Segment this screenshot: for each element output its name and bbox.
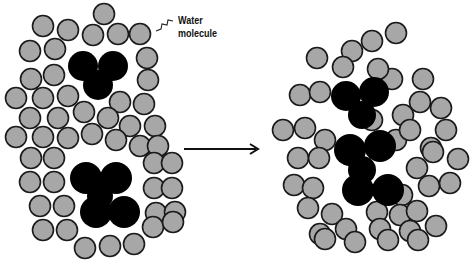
water-molecule bbox=[162, 178, 183, 199]
label-pointer-squiggle bbox=[156, 20, 173, 31]
water-molecule bbox=[54, 196, 75, 217]
water-molecule bbox=[58, 86, 79, 107]
water-molecule bbox=[6, 127, 27, 148]
water-molecule bbox=[44, 172, 65, 193]
water-molecule bbox=[33, 88, 54, 109]
water-molecule bbox=[33, 16, 54, 37]
water-molecule bbox=[440, 173, 461, 194]
water-molecule bbox=[426, 216, 447, 237]
water-molecule bbox=[145, 116, 166, 137]
water-molecule bbox=[75, 238, 96, 259]
water-molecule bbox=[33, 220, 54, 241]
water-molecule bbox=[290, 85, 311, 106]
water-molecule bbox=[30, 196, 51, 217]
water-molecule bbox=[20, 172, 41, 193]
water-molecule bbox=[386, 23, 407, 44]
water-molecule bbox=[83, 25, 104, 46]
water-molecule bbox=[134, 94, 155, 115]
label-line-2: molecule bbox=[178, 27, 217, 40]
water-molecule bbox=[419, 176, 440, 197]
water-molecule bbox=[362, 31, 383, 52]
water-molecule bbox=[378, 230, 399, 251]
water-molecule bbox=[309, 148, 330, 169]
water-molecule bbox=[345, 232, 366, 253]
transition-arrow bbox=[184, 144, 258, 154]
water-molecule bbox=[33, 127, 54, 148]
water-molecule bbox=[137, 48, 158, 69]
water-molecule bbox=[58, 128, 79, 149]
water-molecule bbox=[413, 69, 434, 90]
water-molecule bbox=[400, 120, 421, 141]
water-molecule bbox=[57, 220, 78, 241]
water-molecule bbox=[436, 120, 457, 141]
water-molecule bbox=[423, 142, 444, 163]
water-molecule bbox=[45, 39, 66, 60]
water-molecule bbox=[106, 130, 127, 151]
water-molecule bbox=[273, 120, 294, 141]
water-molecule bbox=[48, 108, 69, 129]
water-molecule bbox=[20, 41, 41, 62]
water-molecule bbox=[284, 175, 305, 196]
water-molecule bbox=[20, 108, 41, 129]
water-molecule bbox=[124, 234, 145, 255]
water-molecule bbox=[288, 148, 309, 169]
water-molecule bbox=[303, 178, 324, 199]
water-molecule bbox=[100, 236, 121, 257]
water-molecule bbox=[44, 148, 65, 169]
water-molecule bbox=[408, 230, 429, 251]
water-molecule bbox=[298, 198, 319, 219]
water-molecule bbox=[307, 48, 328, 69]
water-molecule bbox=[163, 212, 184, 233]
water-molecule bbox=[295, 118, 316, 139]
water-molecule bbox=[162, 153, 183, 174]
water-molecule bbox=[98, 108, 119, 129]
water-molecule bbox=[143, 217, 164, 238]
water-molecule bbox=[448, 149, 469, 170]
water-molecule bbox=[315, 229, 336, 250]
water-molecule bbox=[407, 201, 428, 222]
water-molecule bbox=[21, 148, 42, 169]
water-molecule bbox=[6, 88, 27, 109]
water-molecule bbox=[368, 59, 389, 80]
water-molecule bbox=[94, 4, 115, 25]
hydrophobic-molecule bbox=[334, 130, 404, 206]
water-molecule bbox=[82, 124, 103, 145]
water-molecule bbox=[431, 98, 452, 119]
water-molecule-label: Water molecule bbox=[178, 14, 217, 40]
water-molecule bbox=[108, 24, 129, 45]
water-molecule bbox=[74, 102, 95, 123]
water-molecule bbox=[44, 65, 65, 86]
label-line-1: Water bbox=[178, 14, 217, 27]
water-molecule bbox=[407, 158, 428, 179]
hydrophobic-molecule bbox=[70, 162, 140, 228]
water-molecule bbox=[130, 24, 151, 45]
water-molecule bbox=[310, 82, 331, 103]
right-hydrophobic-aggregate bbox=[331, 77, 404, 206]
water-molecule bbox=[138, 70, 159, 91]
water-molecule bbox=[58, 20, 79, 41]
hydrophobic-effect-diagram: Water molecule bbox=[0, 0, 473, 268]
water-molecule bbox=[21, 69, 42, 90]
water-molecule bbox=[333, 57, 354, 78]
diagram-canvas bbox=[0, 0, 473, 268]
water-molecule bbox=[410, 92, 431, 113]
